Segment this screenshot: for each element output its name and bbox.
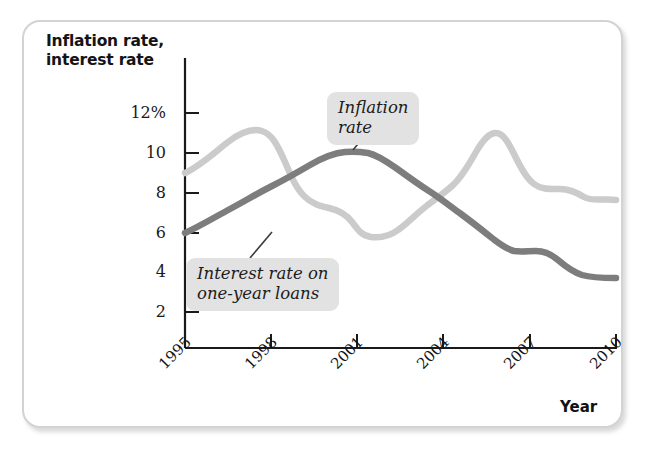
y-tick-label-8: 8 bbox=[110, 183, 166, 202]
y-axis-title: Inflation rate,interest rate bbox=[46, 32, 164, 70]
chart-figure: Inflation rate,interest rate 12% 10 8 6 … bbox=[0, 0, 651, 461]
y-tick-label-12: 12% bbox=[110, 103, 166, 122]
callout-inflation-rate: Inflationrate bbox=[327, 92, 419, 145]
x-axis-title: Year bbox=[560, 398, 597, 416]
callout-inflation-line2: rate bbox=[338, 118, 372, 137]
x-tick-marks bbox=[185, 334, 616, 348]
callout-interest-line2: one-year loans bbox=[197, 284, 319, 303]
y-tick-label-2: 2 bbox=[110, 302, 166, 321]
y-tick-label-6: 6 bbox=[110, 223, 166, 242]
callout-interest-line1: Interest rate on bbox=[197, 264, 328, 283]
callout-interest-rate: Interest rate onone-year loans bbox=[186, 258, 339, 311]
y-axis-title-line1: Inflation rate, bbox=[46, 32, 164, 50]
y-tick-label-4: 4 bbox=[110, 262, 166, 281]
callout-inflation-line1: Inflation bbox=[338, 98, 408, 117]
callout-leader-interest bbox=[250, 232, 272, 258]
series-line-interest-rate bbox=[185, 130, 616, 237]
y-axis-title-line2: interest rate bbox=[46, 51, 154, 69]
y-tick-label-10: 10 bbox=[110, 143, 166, 162]
